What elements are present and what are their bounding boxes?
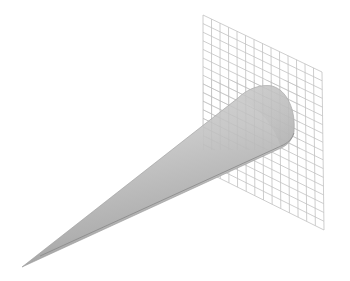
cone-plane-diagram: [0, 0, 350, 281]
cone-body: [22, 86, 294, 268]
cone: [22, 86, 294, 268]
